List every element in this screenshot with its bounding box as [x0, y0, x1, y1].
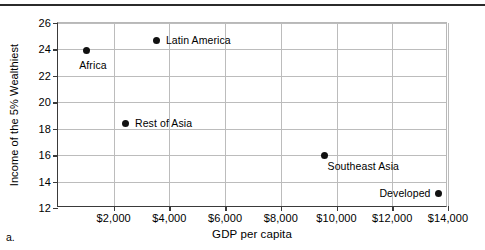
- y-gridline: [58, 155, 446, 156]
- x-gridline: [337, 23, 338, 206]
- scatter-plot-area: 1214161820222426$2,000$4,000$6,000$8,000…: [57, 22, 447, 207]
- x-axis-tick: [225, 206, 226, 211]
- x-gridline: [114, 23, 115, 206]
- x-axis-tick: [281, 206, 282, 211]
- y-axis-title-text: Income of the 5% Wealthiest: [8, 43, 20, 186]
- data-point-marker[interactable]: [435, 190, 442, 197]
- figure-caption-label: a.: [6, 231, 15, 243]
- y-axis-tick: [53, 76, 58, 77]
- x-gridline: [169, 23, 170, 206]
- figure-root: Income of the 5% Wealthiest 121416182022…: [0, 0, 485, 250]
- data-point-marker[interactable]: [122, 120, 129, 127]
- y-axis-tick-label: 22: [39, 70, 51, 81]
- y-gridline: [58, 76, 446, 77]
- y-gridline: [58, 182, 446, 183]
- y-axis-tick-label: 26: [39, 18, 51, 29]
- data-point-marker[interactable]: [153, 37, 160, 44]
- y-axis-tick: [53, 208, 58, 209]
- y-gridline: [58, 23, 446, 24]
- y-gridline: [58, 49, 446, 50]
- y-axis-tick-label: 20: [39, 97, 51, 108]
- y-axis-tick-label: 14: [39, 176, 51, 187]
- y-axis-tick: [53, 155, 58, 156]
- x-axis-tick: [448, 206, 449, 211]
- data-point-label: Rest of Asia: [135, 118, 192, 129]
- x-axis-title: GDP per capita: [57, 228, 447, 240]
- y-axis-tick: [53, 102, 58, 103]
- top-rule-divider: [0, 4, 485, 6]
- x-axis-tick: [337, 206, 338, 211]
- y-axis-tick-label: 24: [39, 44, 51, 55]
- x-axis-tick-label: $6,000: [208, 213, 242, 224]
- y-axis-title: Income of the 5% Wealthiest: [6, 22, 22, 207]
- y-axis-tick-label: 12: [39, 203, 51, 214]
- x-axis-tick-label: $4,000: [152, 213, 186, 224]
- y-axis-tick: [53, 23, 58, 24]
- y-axis-tick: [53, 49, 58, 50]
- data-point-marker[interactable]: [83, 47, 90, 54]
- y-axis-tick: [53, 182, 58, 183]
- data-point-marker[interactable]: [321, 152, 328, 159]
- y-axis-tick-label: 16: [39, 150, 51, 161]
- x-gridline: [281, 23, 282, 206]
- data-point-label: Southeast Asia: [328, 161, 399, 172]
- x-axis-tick-label: $12,000: [372, 213, 412, 224]
- y-axis-tick-label: 18: [39, 123, 51, 134]
- y-gridline: [58, 129, 446, 130]
- data-point-label: Africa: [79, 60, 106, 71]
- x-gridline: [225, 23, 226, 206]
- x-axis-tick: [169, 206, 170, 211]
- x-axis-tick-label: $10,000: [316, 213, 356, 224]
- data-point-label: Developed: [379, 188, 430, 199]
- y-gridline: [58, 102, 446, 103]
- x-axis-tick-label: $14,000: [428, 213, 468, 224]
- x-axis-tick: [114, 206, 115, 211]
- x-gridline: [448, 23, 449, 206]
- x-axis-tick-label: $8,000: [264, 213, 298, 224]
- y-axis-tick: [53, 129, 58, 130]
- x-axis-tick: [392, 206, 393, 211]
- x-gridline: [392, 23, 393, 206]
- data-point-label: Latin America: [166, 35, 231, 46]
- x-axis-tick-label: $2,000: [97, 213, 131, 224]
